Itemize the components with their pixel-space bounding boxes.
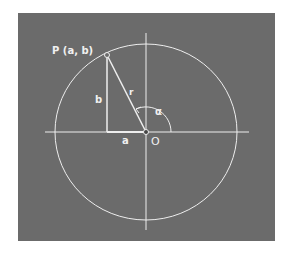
- angle-label: α: [155, 106, 162, 117]
- side-a-label: a: [122, 135, 129, 146]
- origin-point: [144, 130, 149, 135]
- side-b-label: b: [95, 94, 102, 105]
- origin-label: O: [151, 135, 160, 148]
- point-p-label: P (a, b): [52, 45, 93, 56]
- point-p: [105, 53, 110, 58]
- radius-r: [107, 55, 146, 132]
- hypotenuse-label: r: [129, 87, 134, 97]
- angle-arc: [136, 107, 171, 132]
- unit-circle-diagram: P (a, b) b r α a O: [0, 0, 287, 265]
